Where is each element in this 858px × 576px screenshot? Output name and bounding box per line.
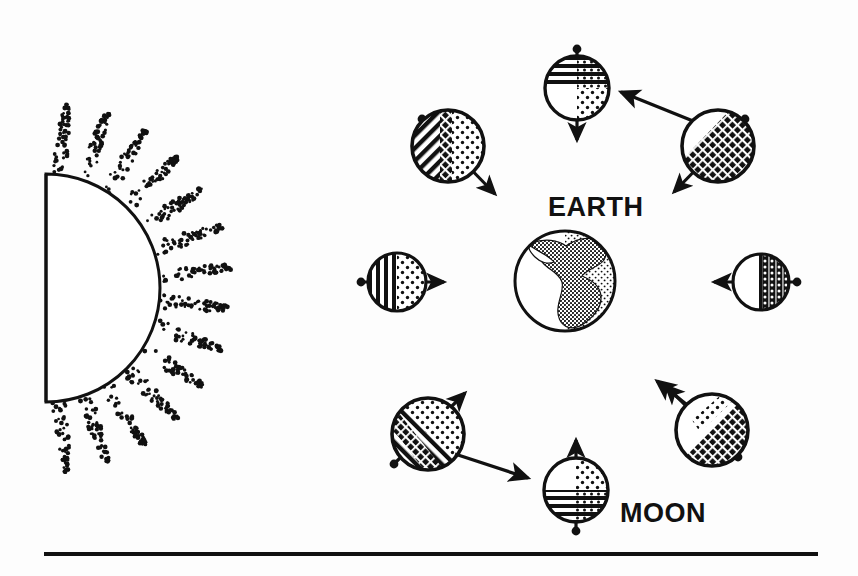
sun-ray-dot — [170, 160, 173, 163]
sun-ray-dot — [54, 404, 59, 409]
sun-ray-dot — [180, 340, 183, 343]
sun-ray-dot — [151, 397, 154, 400]
sun-ray-dot — [212, 226, 215, 229]
sun-ray-dot — [174, 333, 178, 337]
sun-ray-dot — [189, 381, 192, 384]
sun-ray-dot — [134, 152, 138, 156]
sun-ray-dot — [173, 161, 176, 164]
sun-ray-dot — [164, 250, 169, 255]
sun-ray-dot — [198, 308, 201, 311]
sun-ray-dot — [110, 386, 113, 389]
sun-ray-dot — [92, 141, 95, 144]
sun-ray-dot — [68, 108, 71, 111]
sun-ray-dot — [154, 216, 159, 221]
sun-half-disc — [46, 174, 160, 402]
sun-ray-dot — [191, 197, 194, 200]
sun-ray-dot — [103, 445, 108, 450]
sun-ray-dot — [61, 416, 65, 420]
sun-ray-dot — [62, 106, 67, 111]
sun-ray-dot — [216, 309, 220, 313]
sun-ray-dot — [115, 397, 118, 400]
sun-ray-dot — [53, 160, 57, 164]
sun-ray-dot — [146, 393, 149, 396]
sun-ray-dot — [204, 271, 207, 274]
sun-ray-dot — [160, 210, 163, 213]
sun-ray-dot — [161, 244, 165, 248]
sun-ray-dot — [200, 187, 203, 190]
sun-ray-dot — [58, 132, 62, 136]
sun-ray-dot — [207, 345, 210, 348]
sun-ray-dot — [203, 264, 207, 268]
sun-ray-dot — [179, 302, 184, 307]
moon-l-near-shading — [367, 252, 397, 312]
sun-ray-dot — [155, 171, 159, 175]
sun-ray-dot — [157, 394, 160, 397]
sun-ray-dot — [138, 378, 142, 382]
earth-group: EARTH — [514, 192, 644, 334]
sun-ray-dot — [63, 438, 67, 442]
sun-ray-dot — [93, 436, 97, 440]
sun-ray-dot — [61, 432, 64, 435]
sun-ray-dot — [129, 200, 133, 204]
sun-ray-dot — [142, 130, 145, 133]
sun-ray-dot — [130, 427, 133, 430]
sun-ray-dot — [182, 335, 185, 338]
sun-ray-dot — [66, 123, 71, 128]
sun-ray-dot — [154, 349, 158, 353]
sun-ray-dot — [218, 344, 222, 348]
sun-ray-dot — [142, 437, 145, 440]
sun-ray-dot — [113, 176, 118, 181]
sun-ray-dot — [91, 409, 94, 412]
sun-ray-dot — [202, 343, 206, 347]
sun-ray-dot — [62, 156, 65, 159]
sun-ray-dot — [142, 179, 145, 182]
sun-ray-dot — [160, 171, 163, 174]
sun-ray-dot — [166, 322, 169, 325]
sun-ray-dot — [191, 378, 195, 382]
moon-bot-axis-dot — [572, 527, 581, 536]
orbital-arrow-lr-up-left — [657, 381, 686, 404]
sun-ray-dot — [161, 177, 164, 180]
sun-ray-dot — [125, 167, 130, 172]
sun-ray-dot — [185, 331, 188, 334]
sun-ray-dot — [129, 145, 133, 149]
sun-ray-dot — [156, 403, 161, 408]
sun-ray-dot — [160, 322, 165, 327]
sun-ray-dot — [203, 337, 208, 342]
sun-ray-dot — [201, 227, 204, 230]
moon-r-far-shading — [761, 253, 791, 311]
sun-ray-dot — [134, 140, 137, 143]
sun-ray-dot — [67, 444, 71, 448]
moon-position-lower-right — [657, 381, 748, 466]
sun-ray-dot — [66, 111, 71, 116]
moon-r-axis-dot — [793, 278, 802, 287]
sun-ray-dot — [99, 455, 103, 459]
sun-ray-dot — [224, 267, 228, 271]
sun-ray-dot — [171, 372, 176, 377]
sun-ray-dot — [54, 429, 59, 434]
sun-ray-dot — [209, 228, 213, 232]
sun-ray-dot — [162, 275, 165, 278]
sun-ray-dot — [126, 417, 130, 421]
sun-ray-dot — [58, 448, 61, 451]
sun-ray-dot — [96, 161, 99, 164]
sun-ray-dot — [66, 458, 70, 462]
sun-ray-dot — [184, 243, 188, 247]
moon-ul-terminator-band — [440, 108, 452, 184]
sun-ray-dot — [186, 239, 190, 243]
sun-ray-dot — [95, 129, 100, 134]
moon-position-upper-left — [410, 108, 495, 194]
sun-ray-dot — [173, 361, 176, 364]
sun-ray-dot — [178, 366, 183, 371]
sun-ray-dot — [166, 359, 169, 362]
sun-ray-dot — [196, 236, 200, 240]
sun-ray-dot — [164, 172, 168, 176]
sun-ray-dot — [187, 273, 191, 277]
sun-ray-dot — [188, 200, 191, 203]
sun-ray-dot — [88, 397, 91, 400]
sun-ray-dot — [167, 243, 170, 246]
sun-ray-dot — [99, 434, 102, 437]
sun-ray-dot — [216, 349, 219, 352]
sun-ray-dot — [146, 219, 149, 222]
sun-ray-dot — [129, 380, 132, 383]
